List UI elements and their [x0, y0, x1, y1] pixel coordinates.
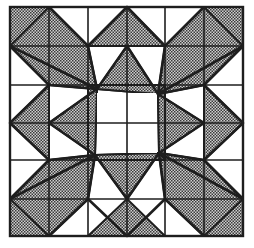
quilt-block	[0, 0, 254, 248]
